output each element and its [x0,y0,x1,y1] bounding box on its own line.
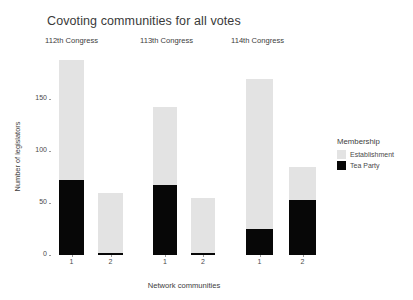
bar-segment-establishment [153,107,177,185]
y-tick: 150 [30,94,47,104]
bar-segment-establishment [191,198,215,253]
x-tick-label: 2 [101,258,121,265]
legend-label: Tea Party [350,162,380,169]
bar-segment-tea-party [59,180,84,255]
bar-segment-tea-party [289,200,316,255]
y-tick: 50 [30,198,47,208]
x-tick-mark [203,255,204,257]
facet-strip-label: 113th Congress [140,36,193,45]
stacked-bar [246,79,273,255]
facet-strip-label: 112th Congress [45,36,98,45]
bar-segment-tea-party [246,229,273,255]
bar-segment-establishment [98,193,123,253]
bar-segment-tea-party [153,185,177,255]
y-tick-label: 100 [30,146,47,153]
x-tick-mark [165,255,166,257]
chart-title: Covoting communities for all votes [47,14,241,28]
facet-panel [52,52,130,255]
chart-legend: Membership EstablishmentTea Party [337,137,394,172]
x-tick-label: 1 [62,258,82,265]
legend-title: Membership [337,137,394,146]
x-tick-mark [72,255,73,257]
x-axis-title: Network communities [48,281,320,290]
chart-figure: Covoting communities for all votes Numbe… [0,0,413,300]
x-tick-label: 2 [293,258,313,265]
y-axis-title: Number of legislators [13,97,22,217]
legend-label: Establishment [350,151,394,158]
bar-segment-establishment [289,167,316,200]
x-tick-label: 1 [155,258,175,265]
legend-swatch-icon [337,161,346,170]
y-tick: 0 [30,250,47,260]
x-tick-mark [111,255,112,257]
stacked-bar [191,198,215,255]
legend-entry: Tea Party [337,161,394,170]
y-tick: 100 [30,146,47,156]
legend-entry: Establishment [337,150,394,159]
x-tick-label: 1 [250,258,270,265]
y-tick-mark [49,151,51,152]
facet-strip-label: 114th Congress [231,36,284,45]
bar-segment-establishment [59,60,84,180]
x-tick-mark [303,255,304,257]
y-tick-mark [49,203,51,204]
y-tick-label: 50 [30,198,47,205]
y-tick-mark [49,99,51,100]
y-tick-label: 150 [30,94,47,101]
x-tick-label: 2 [193,258,213,265]
facet-panel [146,52,222,255]
y-tick-label: 0 [30,250,47,257]
bar-segment-establishment [246,79,273,229]
x-tick-mark [260,255,261,257]
legend-swatch-icon [337,150,346,159]
stacked-bar [153,107,177,255]
stacked-bar [289,167,316,255]
stacked-bar [59,60,84,255]
stacked-bar [98,193,123,255]
facet-panel [238,52,324,255]
legend-entries: EstablishmentTea Party [337,150,394,170]
y-tick-mark [49,255,51,256]
